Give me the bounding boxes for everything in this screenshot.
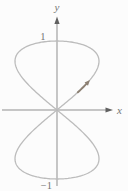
y-tick-label-1: 1 (40, 31, 45, 42)
y-axis-label: y (54, 1, 60, 13)
direction-arrow-tail (78, 83, 87, 92)
x-axis-arrowhead-icon (106, 107, 114, 112)
x-axis-label: x (116, 104, 122, 116)
plot-canvas: y x 1 −1 (0, 0, 128, 191)
y-tick-label-minus-1: −1 (41, 180, 52, 191)
figure-eight-plot: y x 1 −1 (0, 0, 128, 191)
y-axis-arrowhead-icon (54, 17, 59, 25)
